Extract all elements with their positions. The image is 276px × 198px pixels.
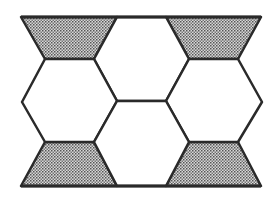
hexagon-tiling-diagram [0, 0, 276, 198]
diagram-canvas [0, 0, 276, 198]
